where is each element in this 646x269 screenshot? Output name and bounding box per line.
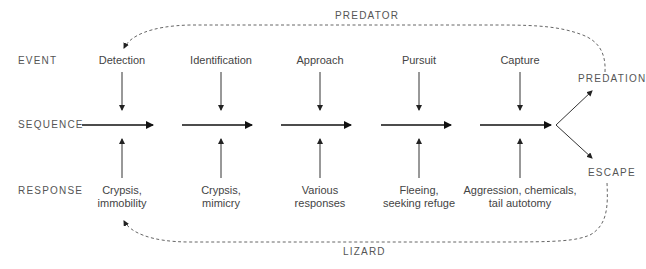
response-identification: Crypsis, mimicry <box>201 184 241 210</box>
loop-label-lizard: LIZARD <box>343 246 386 257</box>
response-line-1: Crypsis, <box>98 184 147 197</box>
event-arrows <box>122 72 520 110</box>
event-pursuit: Pursuit <box>402 54 436 66</box>
outcome-predation: PREDATION <box>578 73 646 84</box>
diagram-lines <box>0 0 646 269</box>
event-detection: Detection <box>99 54 145 66</box>
event-identification: Identification <box>190 54 252 66</box>
response-line-1: Crypsis, <box>201 184 241 197</box>
outcome-branch <box>556 91 592 158</box>
response-line-2: tail autotomy <box>463 197 576 210</box>
response-line-2: seeking refuge <box>383 197 455 210</box>
row-label-sequence: SEQUENCE <box>18 119 84 130</box>
loop-label-predator: PREDATOR <box>335 10 399 21</box>
response-capture: Aggression, chemicals, tail autotomy <box>463 184 576 210</box>
response-line-2: mimicry <box>201 197 241 210</box>
predation-arrow <box>556 91 592 125</box>
outcome-escape: ESCAPE <box>588 167 636 178</box>
response-line-1: Various <box>295 184 346 197</box>
response-line-2: responses <box>295 197 346 210</box>
row-label-event: EVENT <box>18 55 57 66</box>
event-approach: Approach <box>296 54 343 66</box>
escape-arrow <box>556 125 592 158</box>
response-approach: Various responses <box>295 184 346 210</box>
event-capture: Capture <box>500 54 539 66</box>
response-line-1: Aggression, chemicals, <box>463 184 576 197</box>
response-arrows <box>122 139 520 178</box>
row-label-response: RESPONSE <box>18 185 83 196</box>
response-line-1: Fleeing, <box>383 184 455 197</box>
response-line-2: immobility <box>98 197 147 210</box>
response-detection: Crypsis, immobility <box>98 184 147 210</box>
response-pursuit: Fleeing, seeking refuge <box>383 184 455 210</box>
predator-prey-sequence-diagram: EVENT SEQUENCE RESPONSE PREDATOR LIZARD … <box>0 0 646 269</box>
